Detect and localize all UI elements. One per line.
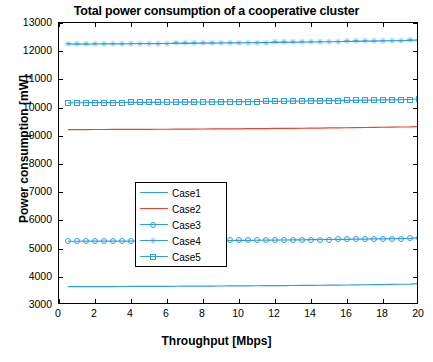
x-tick xyxy=(95,299,96,303)
data-point-marker xyxy=(389,236,395,242)
x-tick xyxy=(203,299,204,303)
data-point-marker xyxy=(182,99,188,105)
data-point-marker xyxy=(335,236,341,242)
x-tick-label: 4 xyxy=(127,307,133,319)
y-tick-right xyxy=(413,136,417,137)
data-point-marker xyxy=(137,99,143,105)
legend-label: Case2 xyxy=(172,204,201,215)
data-point-marker xyxy=(146,99,152,105)
data-point-marker xyxy=(164,99,170,105)
chart-legend: Case1Case2Case3✳Case4Case5 xyxy=(135,182,227,267)
legend-line xyxy=(140,208,168,209)
legend-label: Case1 xyxy=(172,188,201,199)
data-point-marker xyxy=(272,98,278,104)
y-tick-right xyxy=(413,23,417,24)
data-point-marker xyxy=(209,99,215,105)
legend-label: Case4 xyxy=(172,236,201,247)
data-point-marker xyxy=(299,237,305,243)
y-tick xyxy=(59,220,63,221)
y-tick-right xyxy=(413,164,417,165)
data-point-marker xyxy=(290,98,296,104)
x-tick-top xyxy=(167,23,168,27)
x-tick-top xyxy=(383,23,384,27)
x-tick-label: 6 xyxy=(163,307,169,319)
data-point-marker xyxy=(299,98,305,104)
data-point-marker: ✳ xyxy=(136,41,144,47)
data-point-marker: ✳ xyxy=(244,40,252,46)
data-point-marker xyxy=(128,238,134,244)
data-point-marker: ✳ xyxy=(262,40,270,46)
x-tick-label: 16 xyxy=(340,307,352,319)
data-point-marker: ✳ xyxy=(181,40,189,46)
legend-item-case4[interactable]: ✳Case4 xyxy=(136,233,226,249)
data-point-marker xyxy=(65,100,71,106)
data-point-marker xyxy=(173,99,179,105)
legend-marker-icon xyxy=(150,254,156,260)
data-point-marker xyxy=(317,237,323,243)
data-point-marker xyxy=(254,237,260,243)
x-tick-label: 10 xyxy=(232,307,244,319)
x-tick-label: 8 xyxy=(199,307,205,319)
data-point-marker xyxy=(83,100,89,106)
data-point-marker xyxy=(128,99,134,105)
data-point-marker: ✳ xyxy=(352,38,360,44)
data-point-marker: ✳ xyxy=(415,37,418,43)
x-tick-top xyxy=(95,23,96,27)
data-point-marker: ✳ xyxy=(163,41,171,47)
data-point-marker: ✳ xyxy=(100,41,108,47)
data-point-marker: ✳ xyxy=(271,39,279,45)
data-point-marker xyxy=(317,98,323,104)
data-point-marker: ✳ xyxy=(379,38,387,44)
x-tick xyxy=(311,299,312,303)
data-point-marker: ✳ xyxy=(397,38,405,44)
data-point-marker xyxy=(416,96,418,102)
data-point-marker: ✳ xyxy=(190,40,198,46)
data-point-marker xyxy=(362,236,368,242)
legend-item-case5[interactable]: Case5 xyxy=(136,249,226,265)
data-point-marker: ✳ xyxy=(172,40,180,46)
y-tick xyxy=(59,192,63,193)
data-point-marker: ✳ xyxy=(127,41,135,47)
x-axis-label: Throughput [Mbps] xyxy=(0,334,433,348)
data-point-marker xyxy=(335,98,341,104)
data-point-marker xyxy=(263,98,269,104)
data-point-marker xyxy=(200,99,206,105)
data-point-marker: ✳ xyxy=(253,40,261,46)
data-point-marker xyxy=(398,97,404,103)
data-point-marker: ✳ xyxy=(154,41,162,47)
data-point-marker xyxy=(353,236,359,242)
data-point-marker xyxy=(101,238,107,244)
legend-swatch xyxy=(139,218,169,232)
data-point-marker: ✳ xyxy=(316,39,324,45)
legend-label: Case5 xyxy=(172,252,201,263)
data-point-marker xyxy=(380,236,386,242)
legend-item-case1[interactable]: Case1 xyxy=(136,185,226,201)
y-tick-right xyxy=(413,249,417,250)
y-axis-label: Power consumption [mW] xyxy=(17,29,31,269)
data-point-marker xyxy=(65,238,71,244)
y-tick-label: 13000 xyxy=(8,16,52,28)
data-point-marker xyxy=(308,237,314,243)
y-tick xyxy=(59,108,63,109)
data-point-marker: ✳ xyxy=(199,40,207,46)
data-point-marker xyxy=(263,237,269,243)
data-point-marker xyxy=(155,99,161,105)
data-point-marker: ✳ xyxy=(217,40,225,46)
data-point-marker: ✳ xyxy=(325,39,333,45)
x-tick-label: 0 xyxy=(55,307,61,319)
legend-swatch xyxy=(139,250,169,264)
data-point-marker: ✳ xyxy=(406,37,414,43)
data-point-marker: ✳ xyxy=(307,39,315,45)
legend-item-case3[interactable]: Case3 xyxy=(136,217,226,233)
data-point-marker xyxy=(326,98,332,104)
data-point-marker xyxy=(236,99,242,105)
data-point-marker: ✳ xyxy=(226,40,234,46)
data-point-marker xyxy=(92,100,98,106)
data-point-marker xyxy=(92,238,98,244)
x-tick-label: 14 xyxy=(304,307,316,319)
legend-item-case2[interactable]: Case2 xyxy=(136,201,226,217)
data-point-marker xyxy=(119,100,125,106)
data-point-marker xyxy=(380,97,386,103)
data-point-marker: ✳ xyxy=(235,40,243,46)
data-point-marker: ✳ xyxy=(298,39,306,45)
